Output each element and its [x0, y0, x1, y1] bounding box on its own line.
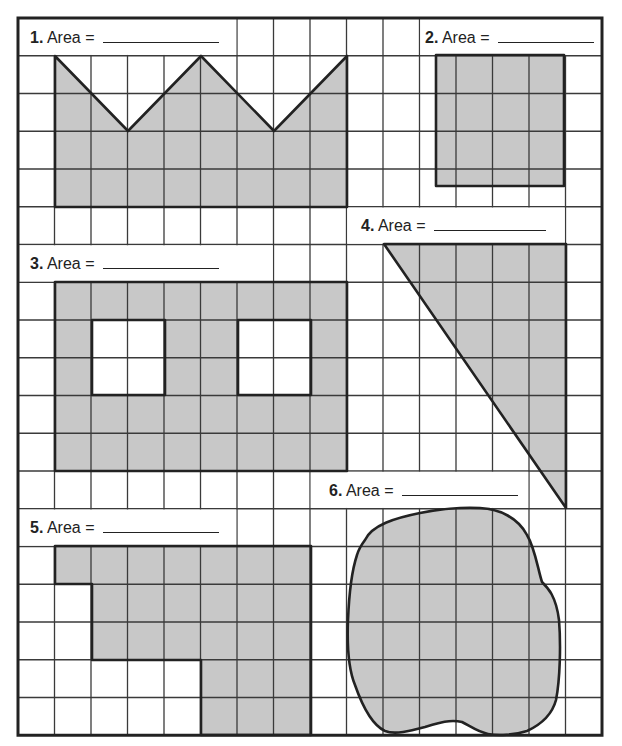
- problem-number: 4.: [361, 217, 374, 234]
- answer-blank[interactable]: [103, 517, 219, 533]
- problem-1-label: 1. Area =: [30, 27, 219, 48]
- problem-3-label: 3. Area =: [30, 253, 219, 274]
- area-text: Area =: [346, 482, 394, 499]
- problem-4-label: 4. Area =: [361, 215, 546, 236]
- problem-number: 2.: [425, 29, 438, 46]
- area-text: Area =: [47, 519, 95, 536]
- area-text: Area =: [442, 29, 490, 46]
- area-text: Area =: [47, 255, 95, 272]
- problem-6-label: 6. Area =: [329, 480, 518, 501]
- problem-number: 3.: [30, 255, 43, 272]
- shape-2-square-fill: [436, 55, 564, 186]
- answer-blank[interactable]: [103, 253, 219, 269]
- problem-5-label: 5. Area =: [30, 517, 219, 538]
- answer-blank[interactable]: [434, 215, 546, 231]
- problem-number: 1.: [30, 29, 43, 46]
- answer-blank[interactable]: [402, 480, 518, 496]
- area-text: Area =: [378, 217, 426, 234]
- area-text: Area =: [47, 29, 95, 46]
- answer-blank[interactable]: [498, 27, 594, 43]
- problem-number: 5.: [30, 519, 43, 536]
- problem-2-label: 2. Area =: [425, 27, 594, 48]
- answer-blank[interactable]: [103, 27, 219, 43]
- problem-number: 6.: [329, 482, 342, 499]
- area-worksheet: [0, 0, 622, 746]
- shape-5-l-shape-fill: [55, 546, 311, 735]
